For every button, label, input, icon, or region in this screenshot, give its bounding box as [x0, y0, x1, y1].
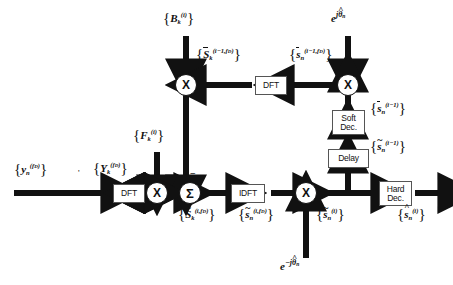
label-shat-n-i: {^sn(i)} [397, 206, 426, 223]
soft-decision-line2: Dec. [340, 123, 357, 132]
summation-node[interactable]: Σ [179, 182, 201, 204]
delay-block[interactable]: Delay [328, 149, 369, 168]
summation-symbol: Σ [186, 186, 194, 201]
label-sbar-n-i1: {sn(i−1)} [370, 100, 406, 117]
label-stilde-n-i: {~sn(i)} [316, 206, 345, 223]
label-exponential-positive: ej^θn [331, 10, 345, 24]
label-feedback-coeff: {Bk(i)} [163, 10, 194, 27]
hard-decision-line2: Dec. [387, 194, 404, 203]
multiplier-input-node[interactable]: X [146, 182, 168, 204]
label-sbar-k-prev: {Sk(i−1,fD)} [196, 46, 241, 63]
label-exponential-negative: e−j^θn [280, 258, 299, 272]
dft-input-block[interactable]: DFT [113, 184, 145, 203]
label-stilde-n-i1: {~sn(i−1)} [370, 138, 406, 155]
multiplier-feedback-node[interactable]: X [175, 74, 197, 96]
multiplier-output-symbol: X [302, 186, 310, 200]
dft-input-label: DFT [121, 189, 137, 198]
label-sbar-n-prev: {sn(i−1,fD)} [289, 46, 332, 63]
idft-label: IDFT [239, 189, 257, 198]
diagram-canvas: DFT DFT IDFT Soft Dec. Delay Hard Dec. X… [0, 0, 453, 285]
delay-label: Delay [338, 154, 359, 163]
multiplier-input-symbol: X [153, 186, 161, 200]
dft-feedback-label: DFT [263, 81, 279, 90]
label-input-tick: ' [78, 168, 80, 178]
label-Stilde-k-i-fd: {~Sk(i,fD)} [178, 206, 216, 223]
idft-block[interactable]: IDFT [231, 184, 265, 203]
label-feedforward-coeff: {Fk(i)} [133, 127, 164, 144]
multiplier-derotate-symbol: X [344, 78, 352, 92]
multiplier-derotate-node[interactable]: X [337, 74, 359, 96]
soft-decision-block[interactable]: Soft Dec. [332, 110, 365, 135]
multiplier-feedback-symbol: X [182, 78, 190, 92]
multiplier-output-node[interactable]: X [295, 182, 317, 204]
label-stilde-n-i-fd: {~sn(i,fD)} [238, 206, 274, 223]
dft-feedback-block[interactable]: DFT [255, 76, 287, 95]
summation-minus-sign: − [190, 168, 196, 179]
label-input-signal: {yn(fD)} [14, 161, 47, 178]
label-input-spectrum: {Yk(fD)} [93, 160, 128, 177]
summation-plus-sign: + [172, 170, 178, 181]
